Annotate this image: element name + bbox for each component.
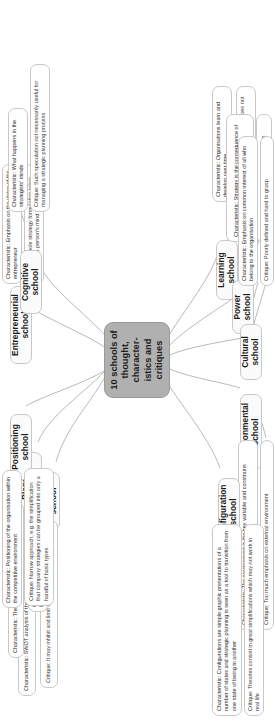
school-node-cognitive[interactable]: Cognitive school xyxy=(20,250,42,314)
school-node-cultural[interactable]: Cultural school xyxy=(240,324,262,380)
leaf-critique-configuration[interactable]: Critique: Theories consist in great simp… xyxy=(244,524,264,716)
mind-map: 10 schools of thought, character-istics … xyxy=(0,0,275,724)
leaf-characteristic-cognitive[interactable]: Characteristic: What happens in the stra… xyxy=(8,108,28,212)
leaf-characteristic-positioning[interactable]: Characteristic: Positioning of the organ… xyxy=(2,470,22,608)
central-topic[interactable]: 10 schools of thought, character-istics … xyxy=(104,322,170,398)
leaf-critique-cognitive[interactable]: Critique: Such speculation not necessari… xyxy=(30,64,50,212)
leaf-characteristic-cultural[interactable]: Characteristic: Emphasis on common inter… xyxy=(238,136,258,286)
leaf-critique-cultural[interactable]: Critique: Poorly defined and hard to gra… xyxy=(260,136,274,286)
leaf-characteristic-configuration[interactable]: Characteristic: Configurations are simpl… xyxy=(212,524,242,716)
leaf-critique-positioning[interactable]: Critique: Narrow approach, e.g. the simp… xyxy=(24,468,54,606)
mind-map-canvas: 10 schools of thought, character-istics … xyxy=(0,0,275,724)
